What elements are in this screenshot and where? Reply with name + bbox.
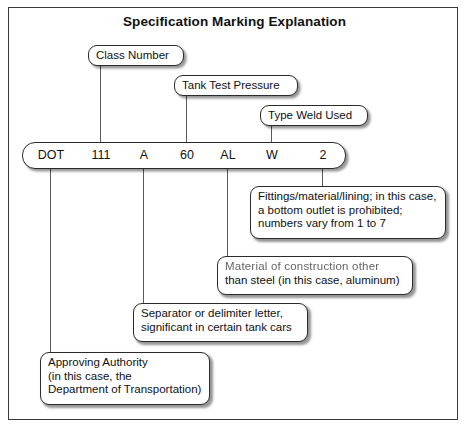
callout-approving-line-3: Department of Transportation) bbox=[48, 383, 202, 397]
callout-class-number-line-1: Class Number bbox=[96, 49, 176, 63]
marking-segment-separator: A bbox=[140, 148, 148, 162]
callout-material-line-2: than steel (in this case, aluminum) bbox=[225, 274, 405, 288]
callout-material-of-construction[interactable]: Material of construction other than stee… bbox=[217, 256, 413, 295]
callout-type-weld-used-line-1: Type Weld Used bbox=[268, 109, 360, 123]
callout-tank-test-pressure[interactable]: Tank Test Pressure bbox=[174, 75, 298, 96]
callout-material-line-1: Material of construction other bbox=[225, 260, 405, 274]
marking-segment-tank-test-pressure: 60 bbox=[180, 148, 194, 162]
callout-type-weld-used[interactable]: Type Weld Used bbox=[260, 105, 368, 126]
marking-segment-weld-type: W bbox=[266, 148, 278, 162]
connector-line-class-number bbox=[100, 65, 102, 143]
callout-fittings-material-lining[interactable]: Fittings/material/lining; in this case, … bbox=[250, 186, 446, 239]
connector-line-tank-test-pressure bbox=[186, 95, 188, 143]
specification-marking-bar[interactable]: DOT 111 A 60 AL W 2 bbox=[22, 142, 346, 169]
connector-line-separator-letter bbox=[143, 168, 145, 304]
callout-fittings-line-1: Fittings/material/lining; in this case, bbox=[258, 190, 438, 204]
callout-approving-line-2: (in this case, the bbox=[48, 370, 202, 384]
callout-approving-line-1: Approving Authority bbox=[48, 356, 202, 370]
connector-line-material-of-construction bbox=[227, 168, 229, 257]
callout-separator-letter[interactable]: Separator or delimiter letter, significa… bbox=[133, 303, 308, 342]
diagram-canvas: Specification Marking Explanation Class … bbox=[0, 0, 469, 429]
callout-fittings-line-2: a bottom outlet is prohibited; bbox=[258, 204, 438, 218]
callout-class-number[interactable]: Class Number bbox=[88, 45, 184, 66]
connector-line-type-weld-used bbox=[271, 125, 273, 143]
callout-separator-line-1: Separator or delimiter letter, bbox=[141, 307, 300, 321]
marking-segment-class-number: 111 bbox=[91, 148, 110, 162]
diagram-title: Specification Marking Explanation bbox=[0, 14, 469, 29]
callout-approving-authority[interactable]: Approving Authority (in this case, the D… bbox=[40, 352, 210, 405]
marking-segment-material: AL bbox=[220, 148, 235, 162]
callout-tank-test-pressure-line-1: Tank Test Pressure bbox=[182, 79, 290, 93]
connector-line-fittings bbox=[322, 168, 324, 187]
callout-fittings-line-3: numbers vary from 1 to 7 bbox=[258, 217, 438, 231]
callout-separator-line-2: significant in certain tank cars bbox=[141, 321, 300, 335]
connector-line-approving-authority bbox=[50, 168, 52, 353]
marking-segment-dot: DOT bbox=[38, 148, 64, 162]
marking-segment-fittings: 2 bbox=[320, 148, 327, 162]
